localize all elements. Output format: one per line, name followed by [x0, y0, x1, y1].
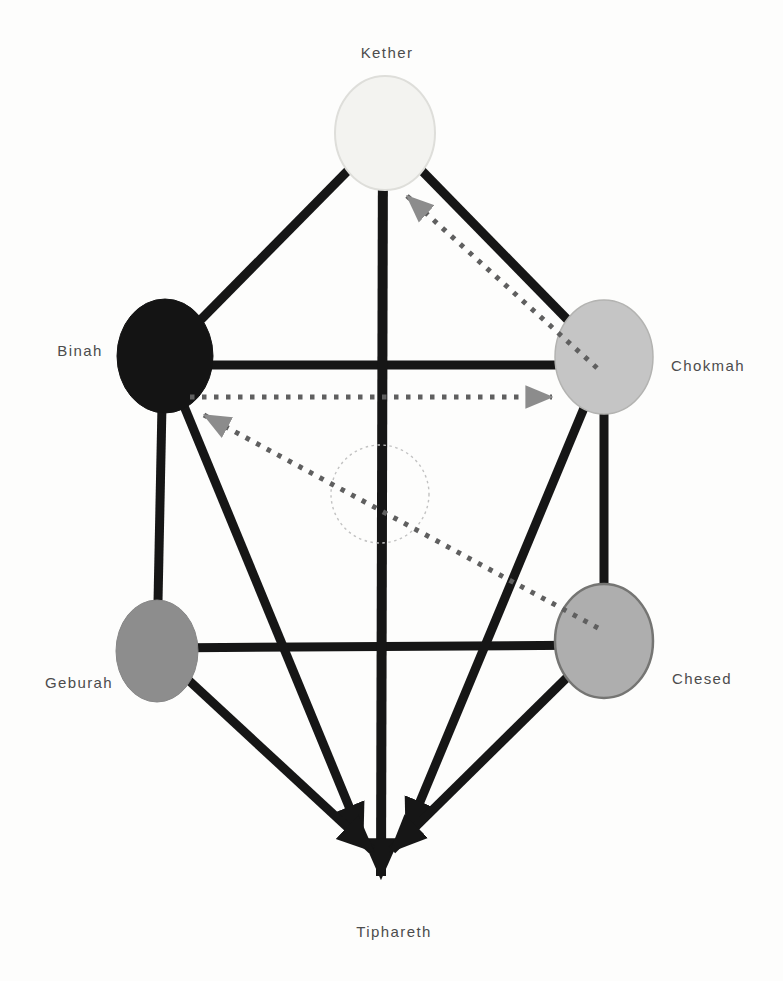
node-label-chokmah: Chokmah [671, 357, 745, 374]
dotted-arrow-chokmah-kether [407, 196, 597, 368]
node-chesed [555, 584, 653, 698]
node-kether [335, 76, 435, 190]
node-label-geburah: Geburah [45, 674, 113, 691]
node-chokmah [555, 300, 653, 414]
figure-page: KetherBinahChokmahGeburahChesedTiphareth [0, 0, 783, 981]
node-label-chesed: Chesed [672, 670, 732, 687]
tree-of-life-diagram: KetherBinahChokmahGeburahChesedTiphareth [0, 0, 783, 981]
node-binah [117, 299, 213, 413]
node-label-binah: Binah [57, 342, 102, 359]
node-label-tiphareth: Tiphareth [356, 923, 431, 940]
arrow-binah-tiphareth [165, 360, 362, 838]
node-geburah [116, 600, 198, 702]
arrow-kether-tiphareth [381, 140, 383, 876]
node-label-kether: Kether [361, 44, 414, 61]
